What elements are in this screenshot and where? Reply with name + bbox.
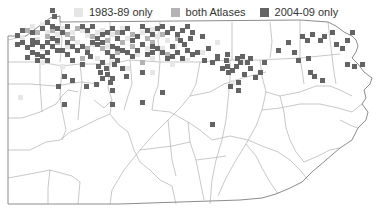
atlas-block bbox=[120, 30, 125, 35]
atlas-block bbox=[215, 56, 220, 61]
atlas-block bbox=[350, 30, 355, 35]
county-line bbox=[8, 170, 80, 182]
atlas-block bbox=[145, 46, 150, 51]
atlas-block bbox=[120, 66, 125, 71]
atlas-block bbox=[75, 40, 80, 45]
atlas-block bbox=[145, 28, 150, 33]
atlas-block bbox=[165, 56, 170, 61]
atlas-block bbox=[40, 54, 45, 59]
atlas-block bbox=[150, 50, 155, 55]
atlas-block bbox=[210, 122, 215, 127]
atlas-block bbox=[175, 50, 180, 55]
atlas-block bbox=[20, 40, 25, 45]
atlas-block bbox=[140, 42, 145, 47]
atlas-block bbox=[130, 54, 135, 59]
atlas-block bbox=[190, 30, 195, 35]
atlas-block bbox=[52, 14, 57, 19]
county-line bbox=[300, 20, 304, 84]
county-line bbox=[78, 64, 82, 120]
atlas-block bbox=[30, 50, 35, 55]
blocks-2004-09-only bbox=[15, 8, 365, 127]
atlas-block bbox=[210, 60, 215, 65]
atlas-block bbox=[200, 50, 205, 55]
atlas-block bbox=[35, 58, 40, 63]
atlas-block bbox=[70, 30, 75, 35]
atlas-block bbox=[345, 62, 350, 67]
atlas-block bbox=[236, 80, 241, 85]
atlas-block bbox=[125, 50, 130, 55]
atlas-block bbox=[30, 24, 35, 29]
atlas-block bbox=[45, 58, 50, 63]
atlas-block bbox=[110, 26, 115, 31]
atlas-block bbox=[155, 34, 160, 39]
atlas-block bbox=[130, 38, 135, 43]
atlas-block bbox=[55, 32, 60, 37]
atlas-block bbox=[125, 36, 130, 41]
atlas-block bbox=[15, 42, 20, 47]
atlas-block bbox=[112, 62, 117, 67]
atlas-block bbox=[150, 70, 155, 75]
atlas-block bbox=[322, 34, 327, 39]
atlas-block bbox=[104, 66, 109, 71]
atlas-block bbox=[70, 58, 75, 63]
county-line bbox=[140, 142, 190, 150]
atlas-block bbox=[65, 24, 70, 29]
atlas-block bbox=[25, 28, 30, 33]
atlas-block bbox=[115, 30, 120, 35]
county-line bbox=[210, 60, 230, 204]
atlas-block bbox=[215, 40, 220, 45]
atlas-block bbox=[25, 45, 30, 50]
atlas-block bbox=[312, 74, 317, 79]
atlas-block bbox=[130, 44, 135, 49]
atlas-block bbox=[140, 70, 145, 75]
atlas-block bbox=[50, 36, 55, 41]
county-line bbox=[218, 92, 266, 196]
atlas-block bbox=[50, 8, 55, 13]
atlas-block bbox=[330, 30, 335, 35]
atlas-block bbox=[145, 36, 150, 41]
atlas-block bbox=[180, 28, 185, 33]
atlas-block bbox=[226, 70, 231, 75]
atlas-block bbox=[150, 44, 155, 49]
atlas-block bbox=[45, 34, 50, 39]
atlas-block bbox=[140, 24, 145, 29]
legend-label: 2004-09 only bbox=[275, 6, 339, 18]
atlas-block bbox=[110, 102, 115, 107]
atlas-block bbox=[80, 56, 85, 61]
atlas-block bbox=[105, 50, 110, 55]
atlas-block bbox=[45, 40, 50, 45]
legend-label: both Atlases bbox=[186, 6, 246, 18]
atlas-block bbox=[228, 84, 233, 89]
atlas-block bbox=[65, 52, 70, 57]
atlas-block bbox=[35, 40, 40, 45]
legend-swatch-light-icon bbox=[74, 8, 83, 17]
atlas-block bbox=[90, 34, 95, 39]
atlas-block bbox=[188, 36, 193, 41]
atlas-block bbox=[45, 50, 50, 55]
legend-label: 1983-89 only bbox=[89, 6, 153, 18]
county-line bbox=[8, 90, 78, 118]
atlas-block bbox=[242, 72, 247, 77]
atlas-block bbox=[340, 46, 345, 51]
atlas-block bbox=[140, 30, 145, 35]
atlas-block bbox=[170, 26, 175, 31]
atlas-block bbox=[175, 32, 180, 37]
atlas-block bbox=[334, 42, 339, 47]
atlas-block bbox=[15, 33, 20, 38]
atlas-block bbox=[62, 74, 67, 79]
atlas-block bbox=[35, 52, 40, 57]
atlas-block bbox=[100, 32, 105, 37]
atlas-block bbox=[360, 62, 365, 67]
atlas-block bbox=[165, 38, 170, 43]
county-line bbox=[246, 144, 278, 194]
atlas-block bbox=[240, 54, 245, 59]
atlas-block bbox=[185, 58, 190, 63]
county-line bbox=[212, 136, 308, 180]
atlas-block bbox=[150, 56, 155, 61]
atlas-block bbox=[40, 44, 45, 49]
atlas-block bbox=[45, 20, 50, 25]
atlas-block bbox=[185, 24, 190, 29]
atlas-block bbox=[105, 44, 110, 49]
atlas-block bbox=[140, 100, 145, 105]
atlas-block bbox=[80, 44, 85, 49]
